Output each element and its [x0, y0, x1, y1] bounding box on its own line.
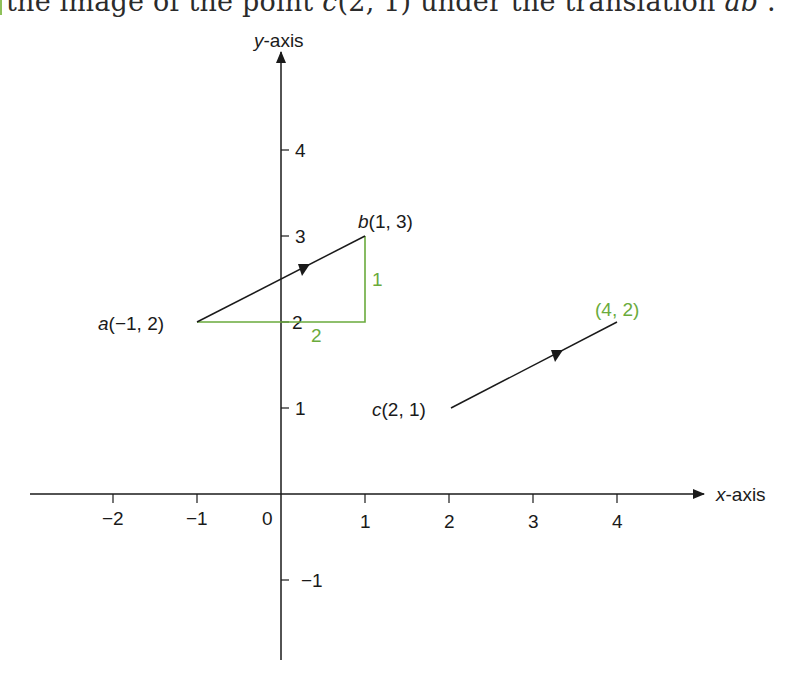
point-b-label: b(1, 3)	[358, 211, 413, 232]
image-point-label: (4, 2)	[595, 299, 639, 320]
y-axis-label: y-axis	[252, 30, 304, 51]
x-tick-label: 4	[612, 511, 623, 532]
x-tick-label: −2	[102, 508, 124, 529]
x-ticks	[113, 494, 617, 503]
coordinate-plane: x-axis y-axis −2 −1 0 1 2 3 4 4 3 2 1 −1…	[0, 0, 801, 681]
x-tick-label: −1	[186, 508, 208, 529]
x-tick-label: 2	[444, 511, 455, 532]
point-c-label: c(2, 1)	[372, 399, 426, 420]
x-tick-label: 1	[360, 511, 371, 532]
y-ticks	[281, 150, 289, 580]
y-tick-label: 3	[295, 226, 306, 247]
vertical-step-label: 1	[372, 269, 383, 290]
x-tick-label: 3	[528, 511, 539, 532]
y-tick-label: 1	[295, 398, 306, 419]
origin-label: 0	[262, 508, 273, 529]
vector-c-image	[451, 322, 617, 408]
horizontal-step-label: 2	[311, 325, 322, 346]
y-tick-label: −1	[301, 570, 323, 591]
point-a-label: a(−1, 2)	[98, 313, 164, 334]
x-axis-label: x-axis	[715, 484, 766, 505]
y-tick-label: 4	[295, 140, 306, 161]
